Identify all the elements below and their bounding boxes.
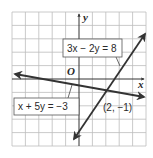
intersection-point — [105, 90, 107, 92]
coordinate-plane: y x O 3x − 2y = 8 x + 5y = −3 (2, −1) — [0, 0, 153, 158]
line1-equation: 3x − 2y = 8 — [67, 43, 117, 54]
intersection-label: (2, −1) — [103, 102, 132, 113]
x-axis-label: x — [137, 78, 144, 90]
y-axis-label: y — [81, 11, 88, 23]
origin-label: O — [67, 65, 75, 77]
label-box-line2: x + 5y = −3 — [14, 85, 79, 115]
line2-equation: x + 5y = −3 — [18, 101, 68, 112]
